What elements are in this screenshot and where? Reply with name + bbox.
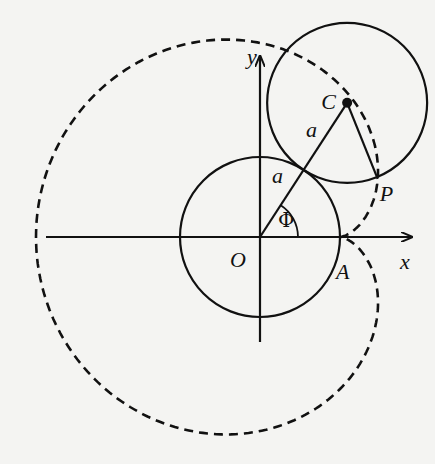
- point-a-label: A: [334, 259, 350, 284]
- origin-label: O: [230, 247, 246, 272]
- radius-a-fixed-label: a: [272, 163, 283, 188]
- center-c-label: C: [321, 89, 336, 114]
- radius-a-moving-label: a: [306, 117, 317, 142]
- point-p-label: P: [379, 181, 393, 206]
- cardioid-diagram: y x O A P C a a Φ: [0, 0, 435, 464]
- y-axis-label: y: [245, 44, 257, 69]
- x-axis-label: x: [399, 249, 410, 274]
- angle-phi-label: Φ: [278, 208, 294, 232]
- diagram-canvas: y x O A P C a a Φ: [0, 0, 435, 464]
- center-c-dot: [342, 98, 352, 108]
